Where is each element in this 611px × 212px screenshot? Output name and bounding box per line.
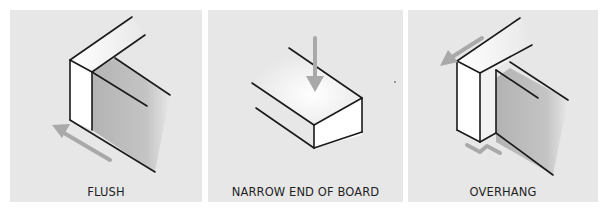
narrow-end-board-icon [208,10,403,202]
panel-label-narrow-end: NARROW END OF BOARD [208,185,403,199]
offset-zigzag-icon [467,145,500,153]
panel-label-overhang: OVERHANG [408,185,598,199]
panel-overhang: OVERHANG [408,10,598,202]
flush-board-icon [10,10,202,202]
panel-narrow-end: NARROW END OF BOARD [208,10,403,202]
panel-label-flush: FLUSH [10,185,202,199]
overhang-board-icon [408,10,598,202]
panel-flush: FLUSH [10,10,202,202]
